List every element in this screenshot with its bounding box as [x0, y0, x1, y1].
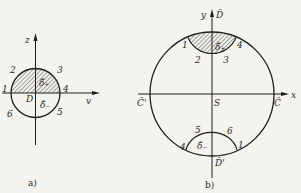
- top-point-2: 2: [194, 55, 201, 65]
- c-tilde-label: C̃: [274, 97, 281, 108]
- top-point-4: 4: [236, 40, 243, 50]
- z-axis-label: z: [24, 35, 30, 45]
- bottom-point-5: 5: [195, 125, 201, 135]
- v-axis-label: v: [86, 96, 91, 106]
- bottom-point-4: 4: [179, 142, 186, 152]
- figure-a: z v D δ̃₊ δ̃₋ 1 2 3 4 5 6 a): [2, 33, 100, 188]
- bottom-region-label: δ̃₋: [197, 141, 207, 151]
- top-point-3: 3: [223, 55, 229, 65]
- origin-label: D: [25, 94, 33, 104]
- region-lower-label: δ̃₋: [40, 100, 50, 110]
- z-arrow-icon: [34, 33, 38, 41]
- d-tilde-label: D̃: [215, 9, 223, 20]
- center-s-label: S: [214, 98, 220, 108]
- diagram-canvas: z v D δ̃₊ δ̃₋ 1 2 3 4 5 6 a) y D̃ x C̃ C…: [0, 0, 301, 193]
- c-tilde-prime-label: C̃': [137, 97, 146, 108]
- caption-a: a): [28, 178, 37, 188]
- d-tilde-prime-label: D̃': [214, 157, 225, 168]
- point-1: 1: [2, 84, 8, 94]
- figure-b: y D̃ x C̃ C̃' S D̃' δ̃₊ δ̃₋ 1 2 3 4 4 5 …: [137, 9, 296, 190]
- x-axis-label: x: [291, 90, 296, 100]
- bottom-point-6: 6: [227, 126, 233, 136]
- y-axis-label: y: [200, 10, 207, 20]
- point-5: 5: [57, 107, 63, 117]
- point-4: 4: [62, 84, 69, 94]
- point-2: 2: [9, 65, 16, 75]
- top-point-1: 1: [182, 40, 188, 50]
- x-arrow-icon: [281, 92, 289, 96]
- v-arrow-icon: [92, 91, 100, 95]
- region-upper-label: δ̃₊: [39, 78, 49, 88]
- point-6: 6: [7, 109, 13, 119]
- top-region-label: δ̃₊: [215, 42, 225, 52]
- bottom-point-1: 1: [238, 140, 244, 150]
- point-3: 3: [57, 65, 63, 75]
- caption-b: b): [205, 180, 214, 190]
- y-arrow-icon: [210, 9, 214, 17]
